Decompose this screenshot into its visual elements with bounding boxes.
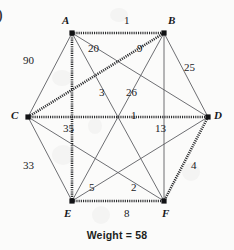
edge-weight-b-d: 25 [184, 62, 195, 73]
graph-edge-b-d [164, 33, 208, 117]
edge-weight-d-f: 4 [191, 160, 197, 171]
graph-node-d[interactable] [205, 114, 210, 119]
edge-weight-a-e: 35 [63, 123, 74, 134]
node-label-e: E [64, 208, 71, 219]
edge-weight-a-b: 1 [124, 15, 130, 26]
node-label-c: C [11, 110, 18, 121]
edge-weight-c-d: 1 [131, 110, 137, 121]
graph-figure: ) 1902035392526131332548ABCDEF Weight = … [0, 0, 234, 250]
graph-node-f[interactable] [161, 198, 166, 203]
graph-node-c[interactable] [25, 114, 30, 119]
edge-weight-b-f: 13 [155, 123, 166, 134]
graph-node-e[interactable] [69, 198, 74, 203]
edge-weight-e-f: 8 [124, 208, 130, 219]
edge-weight-c-f: 2 [131, 182, 137, 193]
graph-edge-c-f [28, 117, 164, 201]
edge-weight-b-e: 26 [126, 87, 137, 98]
node-label-b: B [168, 15, 175, 26]
edge-weight-a-f: 3 [99, 87, 105, 98]
total-weight-caption: Weight = 58 [0, 229, 234, 241]
edge-weight-b-c: 9 [137, 43, 143, 54]
edge-weight-d-e: 5 [89, 182, 95, 193]
edge-weight-a-c: 90 [23, 55, 34, 66]
node-label-a: A [62, 15, 69, 26]
node-label-d: D [214, 110, 222, 121]
graph-node-a[interactable] [69, 30, 74, 35]
graph-canvas [0, 0, 234, 250]
graph-node-b[interactable] [161, 30, 166, 35]
edge-weight-a-d: 20 [88, 43, 99, 54]
graph-edge-d-f [164, 117, 208, 201]
edge-weight-c-e: 33 [23, 160, 34, 171]
node-label-f: F [162, 208, 169, 219]
